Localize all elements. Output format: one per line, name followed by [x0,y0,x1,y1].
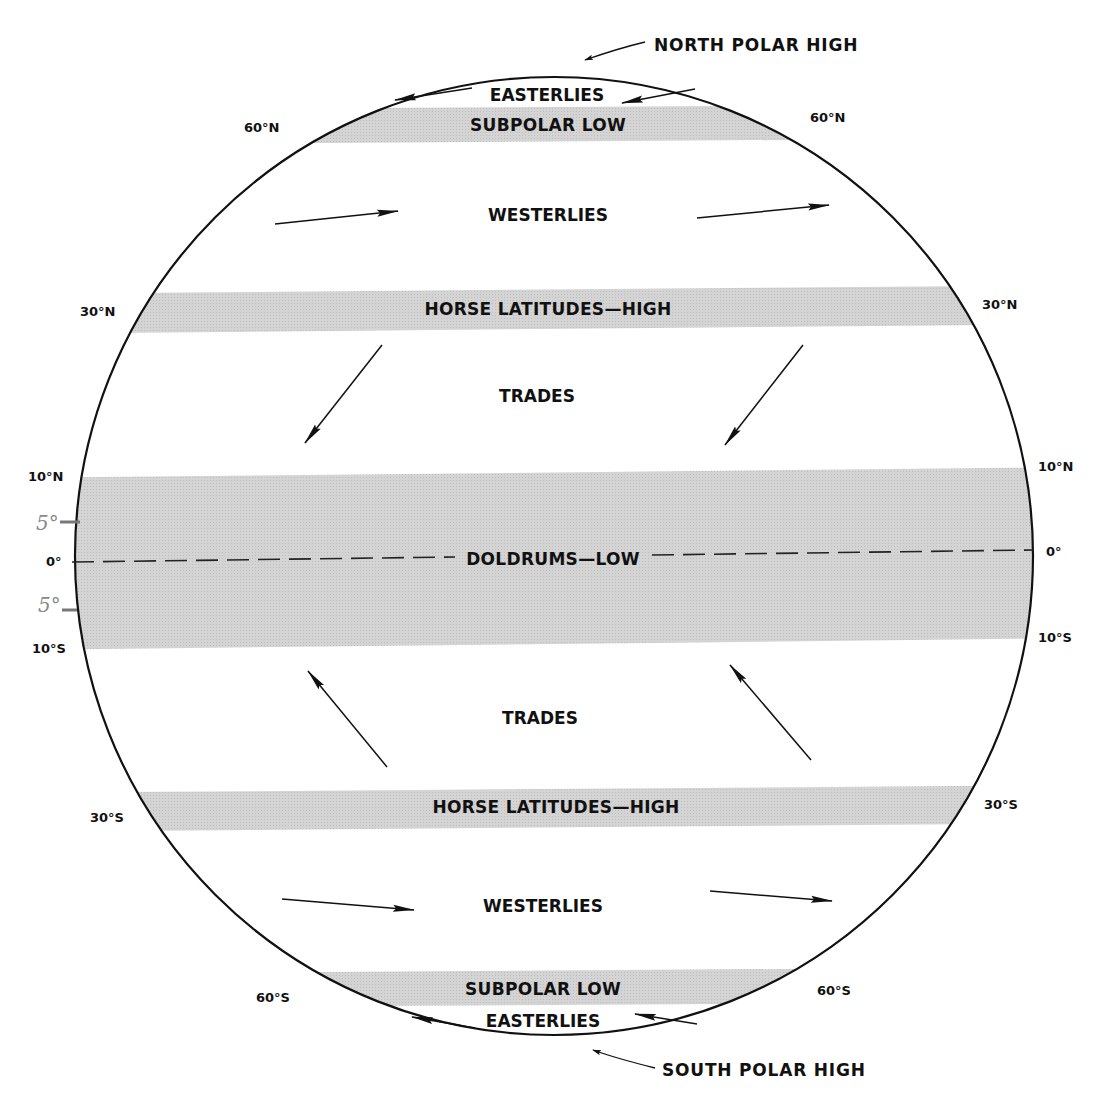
lat-equator-left: 0° [46,554,62,569]
pressure-bands [0,0,1095,1095]
lat-30n-right: 30°N [982,297,1017,312]
pencil-note-north: 5° [36,511,59,535]
pressure-belts-diagram: NORTH POLAR HIGH SOUTH POLAR HIGH SUBPOL… [0,0,1095,1095]
arrow-north-westerlies-right [697,205,829,218]
north-trades-label: TRADES [499,386,575,406]
arrow-south-trades-left [308,671,387,767]
lat-60n-right: 60°N [810,110,845,125]
arrow-north-trades-right [725,345,803,445]
arrow-south-westerlies-left [282,899,414,910]
north-polar-high-label: NORTH POLAR HIGH [654,35,858,55]
lat-60s-left: 60°S [256,990,290,1005]
south-horse-latitudes-label: HORSE LATITUDES—HIGH [432,797,679,817]
arrow-south-westerlies-right [710,891,832,901]
north-polar-high-pointer [585,42,645,60]
arrow-south-easterlies-left [412,1017,475,1028]
lat-30s-left: 30°S [90,810,124,825]
north-easterlies-label: EASTERLIES [490,85,604,105]
band-north-polar-high [0,0,1095,75]
arrow-north-westerlies-left [275,211,398,224]
arrow-north-easterlies-left [395,88,472,100]
pencil-note-south: 5° [38,593,61,617]
north-westerlies-label: WESTERLIES [488,205,608,225]
north-horse-latitudes-label: HORSE LATITUDES—HIGH [424,299,671,319]
south-westerlies-label: WESTERLIES [483,896,603,916]
south-subpolar-low-label: SUBPOLAR LOW [465,979,621,999]
lat-10s-right: 10°S [1038,630,1072,645]
lat-10n-right: 10°N [1038,459,1073,474]
lat-10s-left: 10°S [32,641,66,656]
lat-30s-right: 30°S [984,797,1018,812]
arrow-north-trades-left [305,345,382,443]
south-polar-high-pointer [593,1050,655,1068]
lat-60s-right: 60°S [817,983,851,998]
lat-10n-left: 10°N [28,469,63,484]
lat-equator-right: 0° [1046,544,1062,559]
south-trades-label: TRADES [502,708,578,728]
arrow-south-trades-right [730,665,811,760]
band-south-polar-high [0,1036,1095,1095]
south-easterlies-label: EASTERLIES [486,1011,600,1031]
doldrums-label: DOLDRUMS—LOW [466,549,640,569]
lat-60n-left: 60°N [244,120,279,135]
north-subpolar-low-label: SUBPOLAR LOW [470,115,626,135]
lat-30n-left: 30°N [80,304,115,319]
south-polar-high-label: SOUTH POLAR HIGH [662,1060,866,1080]
